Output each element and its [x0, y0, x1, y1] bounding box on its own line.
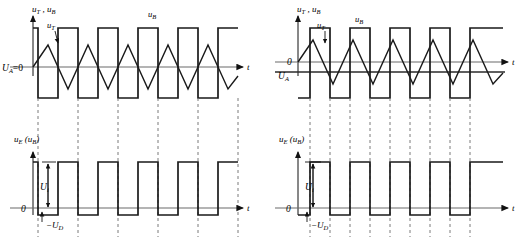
left-bottom-ud-label: −UD: [46, 220, 64, 231]
left-bottom-y-axis-label: uE (uB): [14, 134, 39, 145]
right-bottom-ui-label: Ui: [305, 182, 314, 193]
right-bottom-square-wave: [298, 162, 503, 215]
left-bottom-square-wave: [33, 162, 238, 215]
right-top-square-wave: [298, 28, 503, 98]
left-top-x-axis-label: t: [247, 62, 250, 72]
left-top-y-axis-label: uT , uB: [32, 4, 55, 15]
left-panel-svg: uT , uB t UA=0 uT uB Ui: [0, 0, 265, 247]
left-bottom-zero-label: 0: [21, 204, 26, 214]
left-top-ut-annotation: uT: [47, 20, 55, 31]
left-top-zero-label: UA=0: [2, 63, 23, 74]
left-top-ub-annotation: uB: [148, 9, 156, 20]
panel-right: uT , uB t 0 UA uT uB: [265, 0, 530, 247]
right-bottom-x-axis-label: t: [512, 203, 515, 213]
right-bottom-y-axis-label: uE (uB): [279, 134, 304, 145]
right-top-ut-annotation: uT: [317, 20, 325, 31]
panel-left: uT , uB t UA=0 uT uB Ui: [0, 0, 265, 247]
right-bottom-zero-label: 0: [286, 204, 291, 214]
right-top-y-axis-label: uT , uB: [297, 4, 320, 15]
right-bottom-ud-label: −UD: [311, 220, 329, 231]
right-top-x-axis-label: t: [512, 57, 515, 67]
waveform-figure: uT , uB t UA=0 uT uB Ui: [0, 0, 530, 247]
left-bottom-x-axis-label: t: [247, 203, 250, 213]
right-top-zero-label: 0: [287, 57, 292, 67]
right-top-ub-annotation: uB: [355, 14, 363, 25]
left-bottom-ui-label: Ui: [40, 182, 49, 193]
right-panel-svg: uT , uB t 0 UA uT uB: [265, 0, 530, 247]
